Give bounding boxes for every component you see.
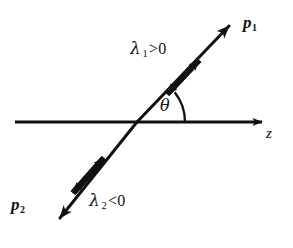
lambda2-symbol: λ bbox=[89, 190, 100, 210]
vector-label-p2-subscript: 2 bbox=[20, 204, 25, 215]
vector-label-p2: p2 bbox=[11, 196, 25, 213]
lambda2-subscript: 2 bbox=[100, 200, 108, 211]
momentum-vector-diagram: p1 p2 λ1>0 λ2<0 z θ bbox=[0, 0, 293, 248]
lambda1-relation: >0 bbox=[149, 40, 166, 57]
lambda1-subscript: 1 bbox=[141, 48, 149, 59]
lambda1-double-arrow-marker bbox=[167, 60, 199, 94]
angle-arc bbox=[175, 92, 185, 122]
lambda2-double-arrow-marker bbox=[73, 158, 104, 193]
lambda2-relation: <0 bbox=[108, 192, 125, 209]
vector-label-p1: p1 bbox=[243, 14, 257, 31]
vector-label-p1-subscript: 1 bbox=[252, 22, 257, 33]
diagram-canvas bbox=[0, 0, 293, 248]
angle-label-theta: θ bbox=[160, 98, 170, 114]
parameter-label-lambda1: λ1>0 bbox=[130, 40, 166, 57]
axis-label-z: z bbox=[266, 126, 272, 141]
vector-label-p2-text: p bbox=[11, 195, 20, 214]
lambda1-symbol: λ bbox=[130, 38, 141, 58]
vector-label-p1-text: p bbox=[243, 13, 252, 32]
parameter-label-lambda2: λ2<0 bbox=[89, 192, 125, 209]
